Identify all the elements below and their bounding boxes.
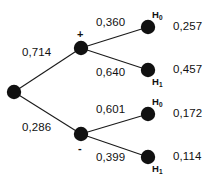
hypothesis-subscript: 1: [159, 168, 163, 175]
edge-negative-to-h0: [81, 114, 148, 134]
branch-label-negative-to-h1: 0,399: [96, 152, 125, 164]
hypothesis-label-negative-h1: H1: [152, 164, 163, 174]
edge-positive-to-h0: [81, 27, 148, 48]
branch-label-positive-to-h1: 0,640: [96, 67, 125, 79]
branch-label-root-to-negative: 0,286: [22, 122, 51, 134]
node-positive: [74, 41, 88, 55]
hypothesis-letter: H: [152, 96, 159, 107]
outcome-value-negative-h0: 0,172: [173, 108, 202, 120]
hypothesis-letter: H: [152, 163, 159, 174]
hypothesis-label-negative-h0: H0: [152, 97, 163, 107]
branch-label-positive-to-h0: 0,360: [96, 17, 125, 29]
hypothesis-label-positive-h1: H1: [152, 77, 163, 87]
node-root: [7, 85, 21, 99]
hypothesis-subscript: 0: [159, 14, 163, 21]
node-negative: [74, 127, 88, 141]
branch-label-negative-to-h0: 0,601: [96, 104, 125, 116]
node-negative-sign: -: [78, 143, 82, 154]
node-leaf-negative-h0: [141, 107, 155, 121]
probability-tree-diagram: + - 0,714 0,286 0,360 0,640 0,601 0,399 …: [0, 0, 215, 187]
node-positive-sign: +: [77, 29, 83, 40]
outcome-value-negative-h1: 0,114: [173, 151, 201, 163]
hypothesis-subscript: 0: [159, 101, 163, 108]
branch-label-root-to-positive: 0,714: [22, 47, 51, 59]
outcome-value-positive-h0: 0,257: [173, 21, 202, 33]
hypothesis-subscript: 1: [159, 81, 163, 88]
outcome-value-positive-h1: 0,457: [173, 64, 202, 76]
node-leaf-positive-h0: [141, 20, 155, 34]
hypothesis-letter: H: [152, 9, 159, 20]
hypothesis-letter: H: [152, 76, 159, 87]
hypothesis-label-positive-h0: H0: [152, 10, 163, 20]
